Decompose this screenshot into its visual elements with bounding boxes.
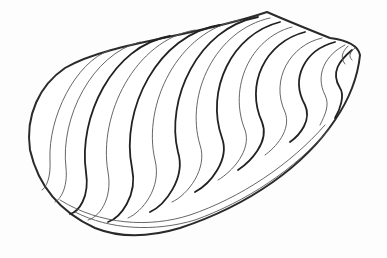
- illustration-canvas: [0, 0, 387, 258]
- shell-outline: [29, 12, 360, 235]
- mussel-shell-icon: [0, 0, 387, 258]
